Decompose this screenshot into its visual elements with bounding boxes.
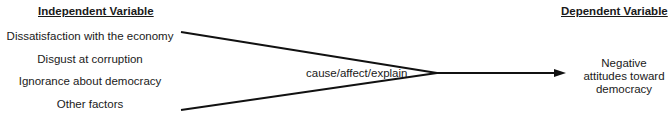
arrowhead-icon bbox=[554, 69, 566, 77]
dv-line-3: democracy bbox=[569, 83, 672, 96]
relation-label: cause/affect/explain bbox=[306, 67, 407, 79]
dv-line-1: Negative bbox=[569, 57, 672, 70]
dependent-variable-heading: Dependent Variable bbox=[561, 5, 668, 17]
dependent-variable-text: Negative attitudes toward democracy bbox=[569, 57, 672, 96]
dv-line-2: attitudes toward bbox=[569, 70, 672, 83]
